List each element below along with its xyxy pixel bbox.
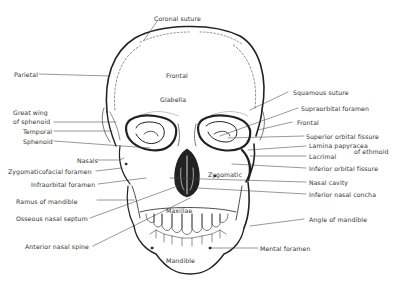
label-mental-foramen: Mental foramen <box>260 245 310 252</box>
label-frontal-right: Frontal <box>297 119 319 126</box>
label-superior-orbital-fissure: Superior orbital fissure <box>306 133 379 140</box>
label-mandible: Mandible <box>166 257 195 264</box>
label-great-wing: Great wing <box>13 109 48 116</box>
label-frontal-center: Frontal <box>166 72 188 79</box>
label-of-sphenoid: of sphenoid <box>13 118 50 125</box>
label-squamous-suture: Squamous suture <box>293 89 349 96</box>
label-parietal: Parietal <box>14 71 38 78</box>
right-ramus <box>244 182 249 228</box>
label-infraorbital-foramen: Infraorbital foramen <box>31 181 95 188</box>
label-temporal: Temporal <box>23 128 52 135</box>
left-ramus <box>127 186 134 226</box>
label-zygomaticofacial-foramen: Zygomaticofacial foramen <box>8 168 92 175</box>
label-inferior-orbital-fissure: Inferior orbital fissure <box>309 165 378 172</box>
label-sphenoid: Sphenoid <box>23 138 53 145</box>
label-of-ethmoid: of ethmoid <box>354 148 389 155</box>
skull-diagram: Coronal suture Frontal Glabella Zygomati… <box>0 0 394 284</box>
label-lacrimal: Lacrimal <box>309 153 336 160</box>
label-zygomatic: Zygomatic <box>208 171 242 178</box>
label-angle-of-mandible: Angle of mandible <box>309 216 367 223</box>
label-ramus-of-mandible: Ramus of mandible <box>16 198 78 205</box>
label-inferior-nasal-concha: Inferior nasal concha <box>309 191 376 198</box>
label-coronal-suture: Coronal suture <box>154 15 201 22</box>
mandible-outline <box>134 226 244 274</box>
label-maxillae: Maxillae <box>166 207 192 214</box>
label-nasals: Nasals <box>77 157 98 164</box>
label-supraorbital-foramen: Supraorbital foramen <box>301 105 369 112</box>
label-nasal-cavity: Nasal cavity <box>309 179 348 186</box>
label-glabella: Glabella <box>160 96 186 103</box>
right-orbit <box>198 116 250 151</box>
label-osseous-nasal-septum: Osseous nasal septum <box>16 215 88 222</box>
left-orbit <box>126 116 176 151</box>
label-anterior-nasal-spine: Anterior nasal spine <box>25 243 89 250</box>
